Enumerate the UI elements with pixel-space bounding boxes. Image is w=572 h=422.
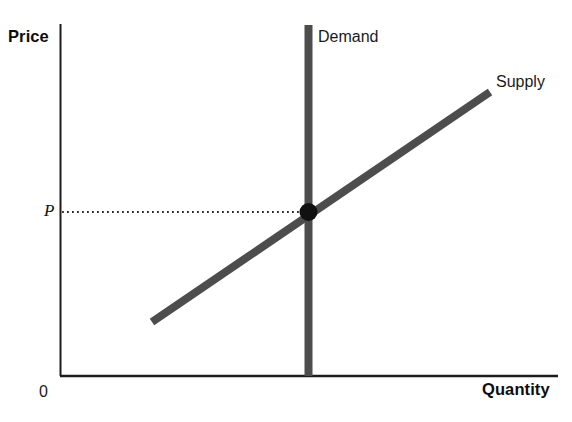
- supply-curve-label: Supply: [496, 74, 545, 90]
- supply-curve: [152, 92, 490, 322]
- y-axis-label: Price: [8, 28, 49, 45]
- demand-curve-label: Demand: [318, 29, 378, 45]
- origin-label: 0: [39, 384, 48, 400]
- supply-demand-figure: Price Quantity 0 Demand Supply P: [0, 0, 572, 422]
- equilibrium-price-label: P: [44, 202, 54, 219]
- equilibrium-point-dot: [300, 203, 318, 221]
- x-axis-label: Quantity: [482, 381, 550, 398]
- plot-canvas: [0, 0, 572, 422]
